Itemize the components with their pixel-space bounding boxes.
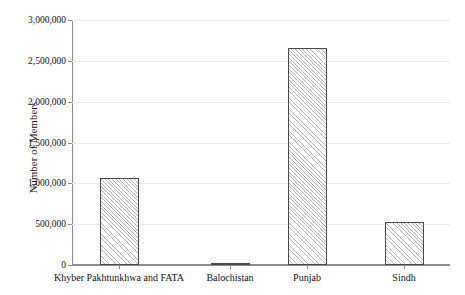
gridline [72,61,450,62]
y-axis-tick-label: 1,500,000 [28,138,66,148]
bar [288,48,327,265]
x-axis-tick-mark [307,265,308,269]
x-axis-tick-label: Sindh [392,272,415,283]
gridline [72,143,450,144]
y-axis-tick-mark [68,61,72,62]
y-axis-title: Number of Members [22,0,44,295]
y-axis-tick-mark [68,224,72,225]
y-axis-tick-mark [68,20,72,21]
y-axis-tick-mark [68,183,72,184]
bar [385,222,424,265]
y-axis-tick-label: 3,000,000 [28,15,66,25]
x-axis-tick-mark [404,265,405,269]
y-axis-tick-mark [68,265,72,266]
x-axis-tick-label: Balochistan [206,272,253,283]
x-axis-tick-label: Punjab [293,272,321,283]
y-axis-tick-label: 0 [61,260,66,270]
y-axis-tick-label: 2,000,000 [28,97,66,107]
x-axis-tick-mark [119,265,120,269]
y-axis-tick-mark [68,143,72,144]
y-axis-tick-label: 1,000,000 [28,178,66,188]
x-axis-tick-mark [230,265,231,269]
bar [100,178,139,265]
gridline [72,102,450,103]
bar-chart-figure: Number of Members 0500,0001,000,0001,500… [0,0,465,295]
y-axis-tick-mark [68,102,72,103]
plot-area: 0500,0001,000,0001,500,0002,000,0002,500… [72,20,450,265]
x-axis-tick-label: Khyber Pakhtunkhwa and FATA [54,272,184,283]
y-axis-tick-label: 2,500,000 [28,56,66,66]
y-axis-tick-label: 500,000 [35,219,66,229]
gridline [72,20,450,21]
